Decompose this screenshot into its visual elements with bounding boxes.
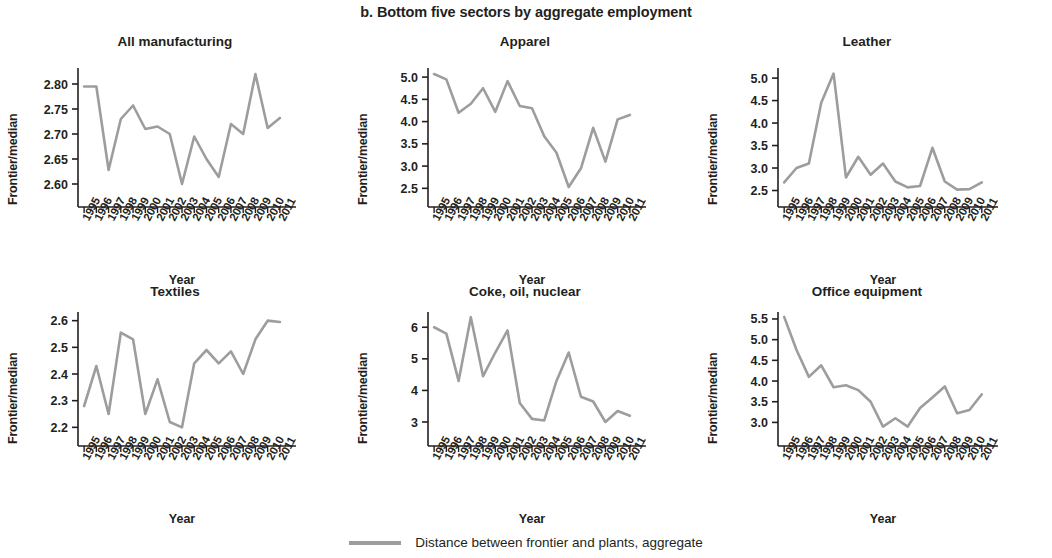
svg-text:4.0: 4.0 bbox=[751, 375, 768, 389]
data-line bbox=[434, 74, 630, 187]
svg-text:5.0: 5.0 bbox=[401, 71, 418, 85]
svg-text:4.5: 4.5 bbox=[751, 354, 768, 368]
panel-grid: All manufacturing Frontier/median 2.602.… bbox=[0, 28, 1052, 518]
svg-text:4.5: 4.5 bbox=[751, 94, 768, 108]
svg-text:4.0: 4.0 bbox=[401, 115, 418, 129]
svg-text:5: 5 bbox=[411, 352, 418, 366]
panel-apparel: Apparel Frontier/median 2.53.03.54.04.55… bbox=[350, 28, 700, 278]
panel-all-manufacturing: All manufacturing Frontier/median 2.602.… bbox=[0, 28, 350, 278]
svg-text:2.70: 2.70 bbox=[44, 128, 68, 142]
plot-area: 2.22.32.42.52.6 bbox=[0, 278, 302, 460]
x-tick-labels: 1995199619971998199920002001200220032004… bbox=[0, 215, 302, 275]
x-tick-labels: 1995199619971998199920002001200220032004… bbox=[350, 454, 652, 514]
legend-label: Distance between frontier and plants, ag… bbox=[415, 535, 702, 550]
svg-text:2.5: 2.5 bbox=[751, 184, 768, 198]
svg-text:6: 6 bbox=[411, 321, 418, 335]
x-tick-labels: 1995199619971998199920002001200220032004… bbox=[350, 215, 652, 275]
legend-line-icon bbox=[349, 541, 401, 545]
x-tick-labels: 1995199619971998199920002001200220032004… bbox=[700, 454, 1004, 514]
x-axis-title: Year bbox=[778, 512, 988, 526]
svg-text:3.5: 3.5 bbox=[401, 137, 418, 151]
svg-text:3.5: 3.5 bbox=[751, 395, 768, 409]
x-tick-labels: 1995199619971998199920002001200220032004… bbox=[700, 215, 1004, 275]
svg-text:2.5: 2.5 bbox=[51, 341, 68, 355]
plot-area: 3456 bbox=[350, 278, 652, 460]
svg-text:3.5: 3.5 bbox=[751, 139, 768, 153]
plot-area: 3.03.54.04.55.05.5 bbox=[700, 278, 1004, 460]
plot-area: 2.602.652.702.752.80 bbox=[0, 28, 302, 221]
svg-text:3.0: 3.0 bbox=[401, 160, 418, 174]
panel-office-equipment: Office equipment Frontier/median 3.03.54… bbox=[700, 278, 1052, 518]
legend: Distance between frontier and plants, ag… bbox=[0, 535, 1052, 550]
svg-text:3.0: 3.0 bbox=[751, 162, 768, 176]
figure-title: b. Bottom five sectors by aggregate empl… bbox=[0, 4, 1052, 20]
x-tick-labels: 1995199619971998199920002001200220032004… bbox=[0, 454, 302, 514]
svg-text:3: 3 bbox=[411, 416, 418, 430]
x-axis-title: Year bbox=[428, 512, 636, 526]
figure-panel-b: b. Bottom five sectors by aggregate empl… bbox=[0, 0, 1052, 558]
svg-text:2.80: 2.80 bbox=[44, 78, 68, 92]
svg-text:2.4: 2.4 bbox=[51, 368, 68, 382]
plot-area: 2.53.03.54.04.55.0 bbox=[350, 28, 652, 221]
data-line bbox=[434, 317, 630, 422]
svg-text:2.2: 2.2 bbox=[51, 421, 68, 435]
panel-textiles: Textiles Frontier/median 2.22.32.42.52.6… bbox=[0, 278, 350, 518]
svg-text:4.5: 4.5 bbox=[401, 93, 418, 107]
data-line bbox=[84, 321, 280, 428]
data-line bbox=[84, 74, 280, 184]
plot-area: 2.53.03.54.04.55.0 bbox=[700, 28, 1004, 221]
svg-text:2.75: 2.75 bbox=[44, 103, 68, 117]
data-line bbox=[784, 74, 982, 190]
svg-text:2.3: 2.3 bbox=[51, 394, 68, 408]
panel-coke-oil-nuclear: Coke, oil, nuclear Frontier/median 3456 … bbox=[350, 278, 700, 518]
x-axis-title: Year bbox=[78, 512, 286, 526]
svg-text:3.0: 3.0 bbox=[751, 416, 768, 430]
svg-text:2.5: 2.5 bbox=[401, 182, 418, 196]
svg-text:4.0: 4.0 bbox=[751, 117, 768, 131]
svg-text:5.0: 5.0 bbox=[751, 333, 768, 347]
svg-text:2.60: 2.60 bbox=[44, 178, 68, 192]
panel-leather: Leather Frontier/median 2.53.03.54.04.55… bbox=[700, 28, 1052, 278]
svg-text:2.65: 2.65 bbox=[44, 153, 68, 167]
svg-text:2.6: 2.6 bbox=[51, 314, 68, 328]
svg-text:5.5: 5.5 bbox=[751, 312, 768, 326]
svg-text:5.0: 5.0 bbox=[751, 72, 768, 86]
svg-text:4: 4 bbox=[411, 384, 418, 398]
data-line bbox=[784, 317, 982, 427]
